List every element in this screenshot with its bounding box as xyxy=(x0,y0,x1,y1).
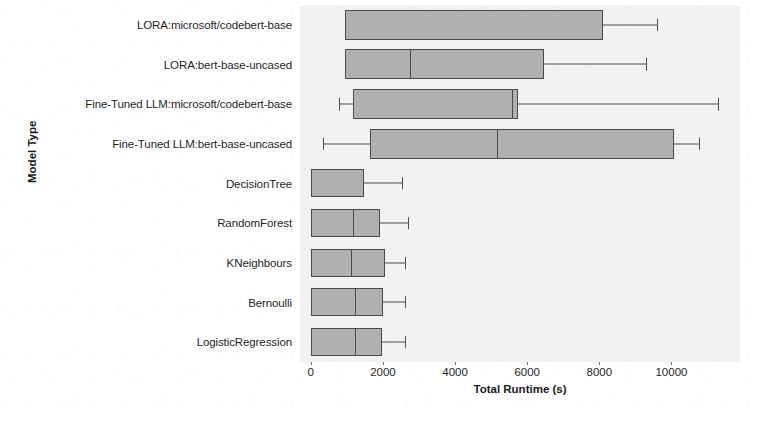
box-rect xyxy=(311,288,383,316)
whisker-high-line xyxy=(380,223,408,224)
boxplot-box xyxy=(300,124,740,164)
x-axis-tick-mark xyxy=(599,362,600,365)
x-axis-tick-label: 4000 xyxy=(442,366,468,378)
median-line xyxy=(353,209,354,237)
y-axis-tick-label: DecisionTree xyxy=(226,178,292,190)
y-axis-tick-labels: LORA:microsoft/codebert-baseLORA:bert-ba… xyxy=(0,0,292,425)
y-axis-tick-label: LORA:bert-base-uncased xyxy=(164,59,292,71)
boxplot-box xyxy=(300,203,740,243)
box-rect xyxy=(353,89,518,119)
boxplot-box xyxy=(300,164,740,204)
boxplot-box xyxy=(300,322,740,362)
x-axis-tick-mark xyxy=(455,362,456,365)
box-rect xyxy=(370,129,674,159)
median-line xyxy=(355,288,356,316)
x-axis-tick-mark xyxy=(311,362,312,365)
whisker-low-cap xyxy=(323,138,324,151)
box-rect xyxy=(311,169,364,197)
boxplot-box xyxy=(300,283,740,323)
x-axis-tick-label: 8000 xyxy=(587,366,613,378)
y-axis-tick-label: LogisticRegression xyxy=(197,336,292,348)
whisker-low-cap xyxy=(339,98,340,111)
whisker-high-cap xyxy=(402,178,403,190)
whisker-high-cap xyxy=(408,217,409,229)
whisker-high-line xyxy=(382,342,405,343)
whisker-high-cap xyxy=(405,297,406,309)
box-rect xyxy=(311,209,380,237)
whisker-high-line xyxy=(674,143,698,144)
boxplot-figure: LORA:microsoft/codebert-baseLORA:bert-ba… xyxy=(0,0,771,425)
boxplot-box xyxy=(300,5,740,45)
x-axis-tick-label: 0 xyxy=(308,366,314,378)
whisker-high-line xyxy=(544,64,646,65)
box-rect xyxy=(345,49,544,79)
y-axis-tick-label: KNeighbours xyxy=(227,257,292,269)
whisker-high-line xyxy=(383,302,405,303)
whisker-high-cap xyxy=(405,336,406,348)
boxplot-box xyxy=(300,243,740,283)
whisker-high-line xyxy=(364,183,402,184)
y-axis-title: Model Type xyxy=(26,121,38,183)
whisker-high-cap xyxy=(657,19,658,32)
y-axis-tick-label: RandomForest xyxy=(217,217,292,229)
whisker-high-cap xyxy=(646,58,647,71)
boxplot-box xyxy=(300,84,740,124)
median-line xyxy=(497,129,498,159)
x-axis-tick-mark xyxy=(671,362,672,365)
plot-area xyxy=(300,5,740,362)
whisker-high-cap xyxy=(699,138,700,151)
box-rect xyxy=(311,249,385,277)
box-rect xyxy=(345,10,603,40)
box-rect xyxy=(311,328,382,356)
x-axis-tick-mark xyxy=(383,362,384,365)
x-axis-tick-label: 2000 xyxy=(370,366,396,378)
x-axis-tick-mark xyxy=(527,362,528,365)
y-axis-tick-label: Fine-Tuned LLM:bert-base-uncased xyxy=(112,138,292,150)
boxplot-box xyxy=(300,45,740,85)
y-axis-tick-label: LORA:microsoft/codebert-base xyxy=(137,19,292,31)
whisker-high-cap xyxy=(405,257,406,269)
median-line xyxy=(410,49,411,79)
whisker-low-line xyxy=(339,104,353,105)
whisker-low-line xyxy=(323,143,370,144)
y-axis-tick-label: Bernoulli xyxy=(248,297,292,309)
x-axis-tick-label: 10000 xyxy=(655,366,687,378)
whisker-high-line xyxy=(385,262,405,263)
median-line xyxy=(351,249,352,277)
y-axis-tick-label: Fine-Tuned LLM:microsoft/codebert-base xyxy=(85,98,292,110)
median-line xyxy=(355,328,356,356)
whisker-high-line xyxy=(603,24,657,25)
x-axis-title: Total Runtime (s) xyxy=(300,383,740,395)
whisker-high-cap xyxy=(718,98,719,111)
x-axis-tick-label: 6000 xyxy=(514,366,540,378)
whisker-high-line xyxy=(518,104,718,105)
median-line xyxy=(512,89,513,119)
